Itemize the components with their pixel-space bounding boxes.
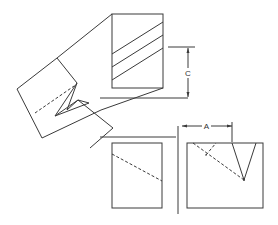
dimension-c: C xyxy=(168,47,195,97)
hatch-line xyxy=(112,35,163,67)
prism-bottom-edge xyxy=(42,110,101,138)
arrow-icon xyxy=(182,125,187,128)
hidden-line-short xyxy=(206,143,216,155)
technical-drawing: C A xyxy=(0,0,278,225)
side-view xyxy=(187,143,263,208)
dimension-a: A xyxy=(182,121,232,142)
hidden-line xyxy=(35,84,77,113)
hidden-line xyxy=(112,154,162,181)
side-view-rectangle xyxy=(187,143,263,208)
hidden-line xyxy=(193,143,244,180)
hatch-line xyxy=(112,22,163,54)
end-face-edge xyxy=(57,58,77,83)
prism-side-edge xyxy=(78,100,113,128)
v-notch-edges xyxy=(55,83,89,116)
front-view xyxy=(112,143,162,208)
end-face-outline xyxy=(17,58,57,138)
arrow-icon xyxy=(187,48,190,53)
prism-top-edge xyxy=(57,14,112,58)
auxiliary-view xyxy=(17,14,163,148)
prism-corner-edge xyxy=(90,128,113,148)
hatch-line xyxy=(112,48,163,80)
arrow-icon xyxy=(187,92,190,97)
dimension-label-c: C xyxy=(185,69,191,78)
front-view-rectangle xyxy=(112,143,162,208)
arrow-icon xyxy=(227,125,232,128)
prism-bottom-edge-2 xyxy=(101,88,163,110)
dimension-label-a: A xyxy=(204,122,210,131)
